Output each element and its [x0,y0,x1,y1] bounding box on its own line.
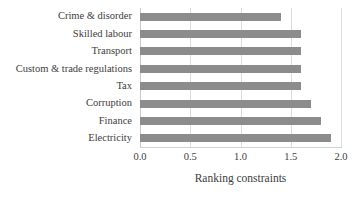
x-axis-tick-label: 2.0 [334,150,347,164]
category-label: Crime & disorder [0,8,136,25]
category-label: Custom & trade regulations [0,60,136,77]
bar-row [140,95,341,112]
x-axis-tick-label: 0.0 [133,150,146,164]
bar-chart: Crime & disorderSkilled labourTransportC… [0,0,359,199]
bar [140,47,301,55]
gridline [341,8,342,147]
category-label: Transport [0,43,136,60]
category-label: Corruption [0,95,136,112]
bar-series [140,8,341,147]
bar-row [140,130,341,147]
x-axis-line [140,147,342,148]
category-label: Tax [0,78,136,95]
bar-row [140,78,341,95]
x-axis-tick-label: 1.0 [234,150,247,164]
bar [140,100,311,108]
category-axis: Crime & disorderSkilled labourTransportC… [0,8,136,147]
bar [140,134,331,142]
bar [140,117,321,125]
bar-row [140,112,341,129]
bar-row [140,25,341,42]
bar [140,13,281,21]
bar-row [140,43,341,60]
x-axis-tick-label: 1.5 [284,150,297,164]
bar [140,82,301,90]
category-label: Electricity [0,130,136,147]
category-label: Finance [0,112,136,129]
plot-area [140,8,341,147]
x-axis-tick-labels: 0.00.51.01.52.0 [140,150,341,164]
category-label: Skilled labour [0,25,136,42]
bar-row [140,8,341,25]
bar-row [140,60,341,77]
bar [140,30,301,38]
x-axis-tick-label: 0.5 [184,150,197,164]
bar [140,65,301,73]
x-axis-title: Ranking constraints [140,172,341,184]
